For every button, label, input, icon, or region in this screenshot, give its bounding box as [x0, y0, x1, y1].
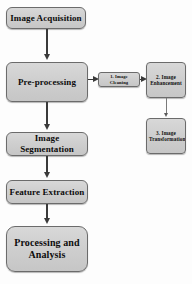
- node-image-segmentation-label: Image Segmentation: [7, 133, 87, 154]
- connector-segmentation-to-feature-extraction: [46, 156, 47, 173]
- node-processing-and-analysis: Processing and Analysis: [6, 226, 88, 272]
- node-image-enhancement-label: 2. Image Enhancement: [147, 74, 185, 86]
- node-feature-extraction: Feature Extraction: [6, 180, 88, 204]
- node-processing-and-analysis-line1: Processing and: [14, 237, 79, 248]
- connector-feature-extraction-to-processing: [46, 204, 47, 219]
- arrowhead-acquisition-to-preprocessing: [44, 54, 50, 60]
- node-image-enhancement-line1: 2. Image: [156, 74, 176, 80]
- node-image-cleaning: 1. Image Cleaning: [98, 72, 140, 87]
- node-image-transformation-line2: Transformation: [149, 136, 185, 142]
- node-processing-and-analysis-line2: Analysis: [29, 249, 66, 260]
- connector-image-enhancement-to-image-transformation: [166, 98, 167, 114]
- connector-acquisition-to-preprocessing: [46, 29, 47, 55]
- arrowhead-segmentation-to-feature-extraction: [44, 172, 50, 178]
- node-image-transformation-label: 3. Image Transformation: [147, 130, 185, 142]
- node-pre-processing-label: Pre-processing: [7, 77, 87, 88]
- node-image-cleaning-label: 1. Image Cleaning: [99, 74, 139, 85]
- connector-preprocessing-to-segmentation: [46, 102, 47, 125]
- node-pre-processing: Pre-processing: [6, 62, 88, 102]
- node-image-acquisition: Image Acquisition: [6, 7, 86, 29]
- node-image-enhancement: 2. Image Enhancement: [146, 62, 186, 98]
- node-image-acquisition-label: Image Acquisition: [7, 13, 85, 24]
- arrowhead-feature-extraction-to-processing: [44, 218, 50, 224]
- arrowhead-image-enhancement-to-image-transformation: [164, 113, 168, 117]
- node-processing-and-analysis-label: Processing and Analysis: [7, 237, 87, 261]
- node-image-transformation: 3. Image Transformation: [146, 118, 186, 154]
- arrowhead-preprocessing-to-segmentation: [44, 124, 50, 130]
- node-image-transformation-line1: 3. Image: [156, 130, 176, 136]
- flowchart-diagram: Image Acquisition Pre-processing Image S…: [0, 0, 192, 284]
- node-feature-extraction-label: Feature Extraction: [7, 187, 87, 198]
- node-image-segmentation: Image Segmentation: [6, 132, 88, 156]
- node-image-enhancement-line2: Enhancement: [150, 80, 182, 86]
